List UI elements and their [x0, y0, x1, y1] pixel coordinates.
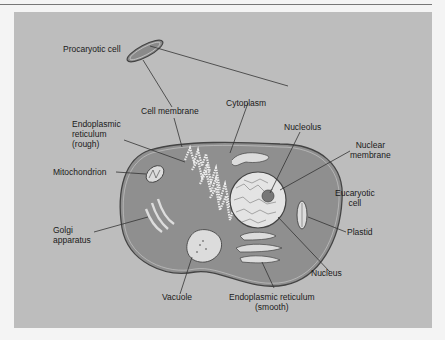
label-mitochondrion: Mitochondrion [53, 167, 106, 177]
nucleus-shape [230, 172, 286, 228]
label-golgi-line2: apparatus [53, 235, 91, 245]
label-procaryotic-cell: Procaryotic cell [63, 44, 121, 54]
label-er-smooth-line2: (smooth) [229, 302, 315, 312]
label-vacuole: Vacuole [162, 292, 192, 302]
label-er-rough-line2: reticulum [72, 129, 121, 139]
label-nuclear-membrane-line1: Nuclear [350, 140, 391, 150]
smooth-er-shape [236, 232, 282, 263]
procaryotic-cell-shape [125, 36, 166, 65]
label-er-smooth-line1: Endoplasmic reticulum [229, 292, 315, 302]
label-er-rough-line3: (rough) [72, 139, 121, 149]
label-er-smooth: Endoplasmic reticulum (smooth) [229, 292, 315, 312]
label-cell-membrane: Cell membrane [141, 106, 199, 116]
label-nucleus: Nucleus [311, 268, 342, 278]
eucaryotic-cell-shape [120, 142, 342, 286]
plastid-shape [297, 201, 307, 229]
label-nuclear-membrane-line2: membrane [350, 150, 391, 160]
nucleolus-shape [262, 190, 274, 202]
label-plastid: Plastid [347, 227, 373, 237]
label-er-rough: Endoplasmic reticulum (rough) [72, 119, 121, 149]
label-cytoplasm: Cytoplasm [226, 98, 266, 108]
label-nucleolus: Nucleolus [284, 122, 321, 132]
label-eucaryotic-cell-line2: cell [335, 198, 375, 208]
label-golgi: Golgi apparatus [53, 225, 91, 245]
label-nuclear-membrane: Nuclear membrane [350, 140, 391, 160]
label-eucaryotic-cell: Eucaryotic cell [335, 188, 375, 208]
label-er-rough-line1: Endoplasmic [72, 119, 121, 129]
label-eucaryotic-cell-line1: Eucaryotic [335, 188, 375, 198]
label-golgi-line1: Golgi [53, 225, 91, 235]
